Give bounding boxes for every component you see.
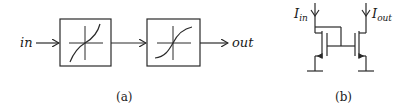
figure-canvas: in out (a) Iin Iout [0, 0, 409, 109]
panel-a: in out (a) [20, 19, 254, 104]
m2-source-arrow-icon [359, 54, 363, 58]
iin-label: Iin [293, 6, 308, 23]
block-expansive [60, 19, 111, 66]
output-label: out [232, 35, 254, 50]
block-compressive [147, 19, 200, 66]
input-label: in [20, 35, 33, 50]
panel-b: Iin Iout (b) [293, 3, 392, 104]
m1-source-arrow-icon [318, 54, 322, 58]
caption-b: (b) [335, 90, 352, 104]
iout-label: Iout [371, 6, 392, 23]
caption-a: (a) [116, 90, 133, 104]
